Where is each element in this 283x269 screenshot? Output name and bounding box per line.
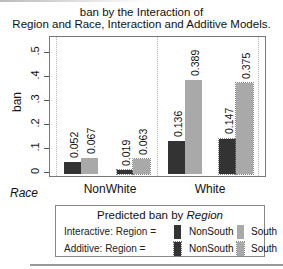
y-tick-label-2: .2 [29, 113, 41, 133]
x-axis-title: Race [10, 186, 38, 200]
value-label-white-interactive-south: 0.389 [189, 50, 201, 76]
separator-left [56, 37, 57, 176]
separator-right [258, 37, 259, 176]
legend-text-additive-south: South [251, 243, 277, 254]
bar-white-additive-south [236, 83, 253, 174]
value-label-nonwhite-additive-south: 0.063 [137, 129, 149, 155]
bar-nonwhite-interactive-nonsouth [64, 162, 81, 175]
legend-title-var: Region [187, 209, 223, 221]
bar-nonwhite-additive-nonsouth [117, 170, 133, 175]
bar-white-interactive-nonsouth [168, 141, 185, 174]
bottom-rule [30, 264, 283, 266]
value-label-nonwhite-interactive-south: 0.067 [85, 128, 97, 154]
legend-swatch-additive-nonsouth [174, 242, 181, 256]
bar-white-additive-nonsouth [219, 139, 236, 175]
legend-text-additive-nonsouth: NonSouth [189, 243, 233, 254]
category-label-white: White [185, 182, 235, 196]
y-tick-label-0: 0 [29, 161, 41, 181]
bar-nonwhite-additive-south [133, 159, 150, 174]
legend-row-additive-label: Additive: Region = [64, 243, 145, 254]
value-label-white-additive-south: 0.375 [240, 53, 252, 79]
bar-white-interactive-south [185, 80, 202, 174]
legend-swatch-additive-south [237, 242, 244, 256]
y-tick-label-5: .5 [29, 41, 41, 61]
top-rule [0, 0, 150, 2]
value-label-nonwhite-additive-nonsouth: 0.019 [120, 140, 132, 166]
y-axis-title: ban [10, 87, 24, 117]
separator-middle [157, 37, 158, 176]
y-tick-label-4: .4 [29, 65, 41, 85]
category-label-nonwhite: NonWhite [80, 182, 140, 196]
y-tick-label-3: .3 [29, 89, 41, 109]
legend-swatch-interactive-nonsouth [174, 225, 181, 239]
bar-nonwhite-interactive-south [81, 158, 98, 174]
value-label-nonwhite-interactive-nonsouth: 0.052 [68, 132, 80, 158]
legend-title: Predicted ban by Region [56, 209, 264, 221]
value-label-white-interactive-nonsouth: 0.136 [172, 111, 184, 137]
legend-swatch-interactive-south [237, 225, 244, 239]
chart-title-line-2: Region and Race, Interaction and Additiv… [0, 18, 283, 31]
value-label-white-additive-nonsouth: 0.147 [223, 108, 235, 134]
y-tick-label-1: .1 [29, 137, 41, 157]
legend: Predicted ban by Region Interactive: Reg… [55, 205, 265, 257]
legend-row-interactive-label: Interactive: Region = [64, 226, 156, 237]
legend-text-interactive-nonsouth: NonSouth [189, 226, 233, 237]
legend-title-prefix: Predicted ban by [97, 209, 187, 221]
legend-text-interactive-south: South [251, 226, 277, 237]
